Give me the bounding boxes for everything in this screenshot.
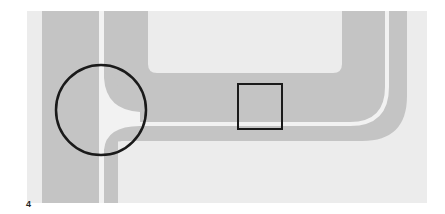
figure-label: 4 (26, 199, 31, 209)
road-diagram (0, 0, 445, 214)
vertical-centre-line (99, 11, 104, 203)
inner-block (148, 11, 342, 73)
